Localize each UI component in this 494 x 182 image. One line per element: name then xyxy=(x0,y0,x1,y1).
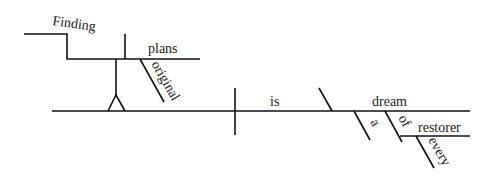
sentence-diagram: Finding plans original is dream a of res… xyxy=(0,0,494,182)
word-original: original xyxy=(148,58,183,103)
word-dream: dream xyxy=(372,94,407,109)
word-a: a xyxy=(367,116,383,130)
predicate-nominative-divider xyxy=(319,88,332,111)
gerund-stilt-fork xyxy=(108,95,125,111)
word-restorer: restorer xyxy=(418,120,461,135)
word-plans: plans xyxy=(148,41,178,56)
word-is: is xyxy=(270,94,279,109)
article-modifier-line xyxy=(354,111,370,140)
word-finding: Finding xyxy=(52,13,97,34)
word-every: every xyxy=(425,134,454,168)
word-of: of xyxy=(395,112,414,130)
